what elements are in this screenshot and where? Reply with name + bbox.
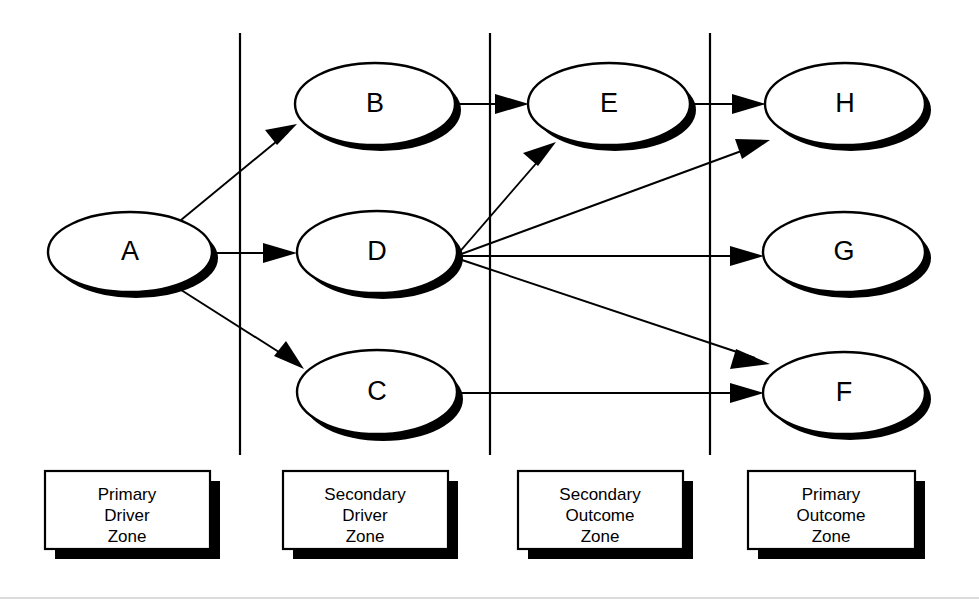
- node-g[interactable]: G: [763, 212, 931, 298]
- edge-c-to-f: [458, 383, 764, 403]
- node-h-label: H: [835, 88, 855, 118]
- edge-a-to-c-line: [178, 288, 293, 361]
- edge-d-to-f-arrowhead: [730, 349, 770, 369]
- edge-a-to-d: [212, 243, 297, 263]
- zone-box-secondary-outcome-line-2: Outcome: [566, 506, 635, 525]
- node-d[interactable]: D: [297, 211, 463, 299]
- zone-box-secondary-outcome-line-1: Secondary: [559, 485, 641, 504]
- zone-box-primary-driver-line-1: Primary: [98, 485, 157, 504]
- zone-box-secondary-driver[interactable]: Secondary Driver Zone: [283, 471, 458, 559]
- node-g-label: G: [833, 236, 854, 266]
- edge-a-to-b-arrowhead: [265, 124, 297, 145]
- edge-e-to-h-arrowhead: [732, 94, 766, 114]
- node-b-label: B: [366, 88, 384, 118]
- edge-b-to-e-arrowhead: [495, 94, 529, 114]
- zone-box-secondary-driver-line-2: Driver: [342, 506, 388, 525]
- edge-d-to-h-arrowhead: [735, 139, 770, 159]
- node-c-label: C: [367, 376, 387, 406]
- edge-d-to-g-arrowhead: [730, 246, 764, 266]
- edge-b-to-e: [455, 94, 529, 114]
- zone-box-primary-outcome-line-3: Zone: [812, 527, 851, 546]
- flow-diagram: A B D C: [0, 0, 979, 604]
- zone-box-primary-driver[interactable]: Primary Driver Zone: [45, 471, 220, 559]
- edge-e-to-h: [690, 94, 766, 114]
- node-f-label: F: [836, 377, 853, 407]
- node-e-label: E: [600, 88, 618, 118]
- zone-box-primary-outcome-line-2: Outcome: [797, 506, 866, 525]
- node-a[interactable]: A: [48, 212, 218, 298]
- node-e[interactable]: E: [528, 63, 696, 151]
- node-d-label: D: [367, 236, 387, 266]
- edge-d-to-g: [456, 246, 764, 266]
- edge-a-to-b-line: [181, 132, 288, 220]
- node-a-label: A: [121, 236, 139, 266]
- zone-box-primary-driver-line-2: Driver: [104, 506, 150, 525]
- zone-box-secondary-driver-line-3: Zone: [346, 527, 385, 546]
- node-h[interactable]: H: [765, 63, 931, 151]
- edge-d-to-e-arrowhead: [523, 142, 556, 166]
- node-b[interactable]: B: [295, 63, 461, 151]
- edges-layer: [178, 94, 770, 403]
- zone-box-secondary-driver-line-1: Secondary: [324, 485, 406, 504]
- diagram-canvas: A B D C: [0, 0, 979, 604]
- edge-c-to-f-arrowhead: [730, 383, 764, 403]
- edge-d-to-h: [456, 139, 770, 256]
- node-c[interactable]: C: [297, 350, 463, 441]
- zone-legend: Primary Driver Zone Secondary Driver Zon…: [45, 471, 925, 559]
- node-f[interactable]: F: [763, 352, 931, 440]
- zone-box-primary-outcome-line-1: Primary: [802, 485, 861, 504]
- zone-box-secondary-outcome[interactable]: Secondary Outcome Zone: [518, 471, 693, 559]
- edge-a-to-d-arrowhead: [263, 243, 297, 263]
- zone-box-primary-outcome[interactable]: Primary Outcome Zone: [748, 471, 925, 559]
- edge-d-to-f: [456, 258, 770, 369]
- edge-d-to-e: [456, 142, 556, 256]
- zone-box-secondary-outcome-line-3: Zone: [581, 527, 620, 546]
- edge-a-to-c-arrowhead: [274, 341, 304, 369]
- zone-box-primary-driver-line-3: Zone: [108, 527, 147, 546]
